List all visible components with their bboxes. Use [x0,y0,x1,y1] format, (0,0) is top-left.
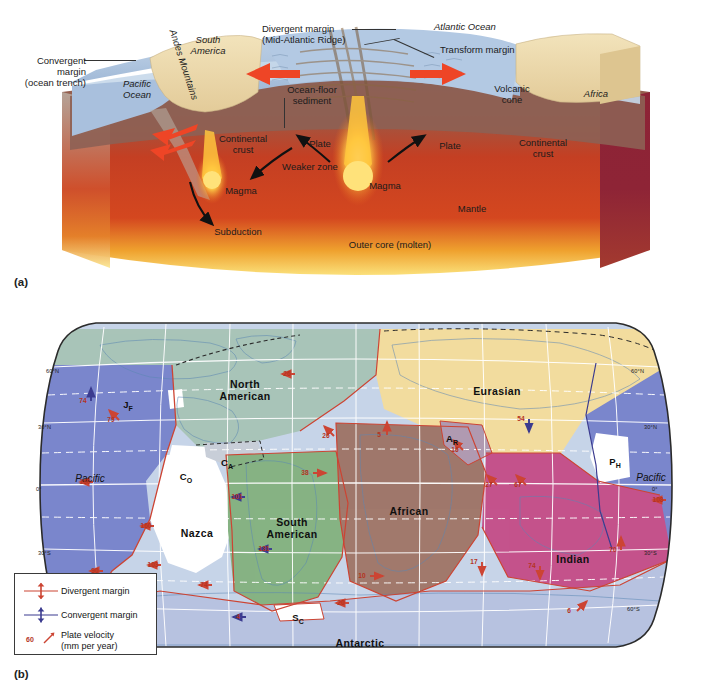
label-weaker-zone: Weaker zone [282,161,338,172]
velocity-value-4: 5 [377,431,381,438]
panel-b-world-plate-map: 60°N 30°N 0° 30°S 60°N 30°N 0° 30°S 60°S… [0,305,712,665]
cutaway-block-svg [0,0,712,300]
cc-left-line2: crust [233,144,254,155]
leader-sediment [284,98,285,128]
velocity-value-16: 10 [358,572,365,579]
velocity-value-0: 74 [79,397,86,404]
velocity-value-3: 26 [322,432,329,439]
cc-right-line2: crust [533,148,554,159]
label-divergent-margin: Divergent margin (Mid-Atlantic Ridge) [262,23,345,45]
sediment-line2: sediment [293,95,332,106]
lat-label-60n-right: 60°N [631,368,644,374]
lat-label-60s-right: 60°S [627,606,640,612]
velocity-value-15: 103 [147,561,158,568]
lat-label-60n-left: 60°N [46,368,59,374]
legend-label-convergent: Convergent margin [61,610,138,621]
label-africa: Africa [584,88,608,99]
lat-label-0-left: 0° [36,486,42,492]
plate-name-north-american: NorthAmerican [219,378,270,402]
label-subduction: Subduction [214,226,262,237]
left-magma-blob [203,171,221,189]
panel-a-tag: (a) [14,276,28,288]
lat-label-30n-left: 30°N [38,424,51,430]
label-pacific-ocean: Pacific Ocean [123,78,151,100]
lat-label-30s-left: 30°S [38,550,51,556]
plate-name-antarctic: Antarctic [335,637,384,649]
label-mantle: Mantle [458,203,487,214]
south-america-line1: South [196,34,221,45]
lat-label-30n-right: 30°N [644,424,657,430]
velocity-value-12: 27 [485,481,492,488]
sediment-line1: Ocean-floor [287,84,337,95]
velocity-value-21: 74 [200,581,207,588]
label-plate-right: Plate [439,140,461,151]
cc-left-line1: Continental [219,133,267,144]
label-magma-left: Magma [225,185,257,196]
label-transform-margin: Transform margin [440,44,515,55]
velocity-value-10: 160 [140,522,151,529]
velocity-value-24: 6 [567,607,571,614]
legend-row-velocity: 60 Plate velocity (mm per year) [21,627,150,658]
label-outer-core: Outer core (molten) [349,239,431,250]
label-ocean-floor-sediment: Ocean-floor sediment [287,84,337,106]
velocity-value-8: 38 [301,469,308,476]
label-volcanic-cone: Volcanic cone [494,83,529,105]
divergent-margin-symbol [21,582,61,600]
legend-row-convergent: Convergent margin [21,603,150,627]
velocity-value-13: 67 [514,481,521,488]
volcanic-cone-line1: Volcanic [494,83,529,94]
divergent-margin-line1: Divergent margin [262,23,334,34]
plate-name-nazca: Nazca [181,527,213,539]
plate-name-pacific-west: Pacific [636,472,665,484]
legend-velocity-value: 60 [26,636,34,643]
legend-label-divergent: Divergent margin [61,586,130,597]
plate-area-juan-de-fuca [168,389,184,409]
plate-velocity-symbol: 60 [21,630,61,646]
convergent-margin-line3: (ocean trench) [25,77,86,88]
plate-abbr-ca: CA [221,457,233,470]
plate-abbr-jf: JF [123,399,133,412]
velocity-value-1: 79 [107,416,114,423]
legend-label-velocity: Plate velocity (mm per year) [61,630,118,651]
label-plate-left: Plate [309,138,331,149]
velocity-value-7: 101 [231,493,242,500]
velocity-value-2: 26 [283,370,290,377]
volcanic-cone-line2: cone [502,94,523,105]
panel-b-tag: (b) [14,668,29,680]
legend-velocity-line2: (mm per year) [61,641,118,651]
velocity-value-6: 16 [451,446,458,453]
leader-convergent-margin [84,60,136,61]
legend-velocity-line1: Plate velocity [61,630,114,640]
plate-abbr-ar: AR [446,433,458,446]
velocity-value-18: 74 [528,562,535,569]
lat-label-0-right: 0° [652,486,658,492]
pacific-ocean-line1: Pacific [123,78,151,89]
plate-abbr-co: CO [180,471,192,484]
velocity-value-9: 160 [79,478,90,485]
pacific-ocean-line2: Ocean [123,89,151,100]
plate-name-eurasian: Eurasian [473,385,521,397]
plate-abbr-ph: PH [609,456,620,469]
label-magma-center: Magma [369,180,401,191]
map-legend: Divergent margin Convergent margin 60 [14,573,157,655]
label-continental-crust-left: Continental crust [219,133,267,155]
velocity-value-23: 4 [236,613,240,620]
velocity-value-14: 131 [258,545,269,552]
plate-abbr-sc: SC [292,612,303,625]
velocity-value-17: 17 [470,558,477,565]
panel-a-cutaway-diagram: Convergent margin (ocean trench) Pacific… [0,0,712,300]
plate-name-indian: Indian [556,553,589,565]
velocity-value-22: 20 [337,599,344,606]
label-continental-crust-right: Continental crust [519,137,567,159]
legend-row-divergent: Divergent margin [21,579,150,603]
plate-name-south-american: SouthAmerican [266,516,317,540]
velocity-value-5: 54 [517,415,524,422]
label-atlantic-ocean: Atlantic Ocean [434,21,496,32]
convergent-margin-symbol [21,606,61,624]
label-south-america: South America [191,34,226,56]
label-convergent-margin: Convergent margin (ocean trench) [14,55,86,88]
velocity-value-11: 108 [652,496,663,503]
lat-label-30s-right: 30°S [644,550,657,556]
south-america-line2: America [191,45,226,56]
plate-name-african: African [390,505,429,517]
